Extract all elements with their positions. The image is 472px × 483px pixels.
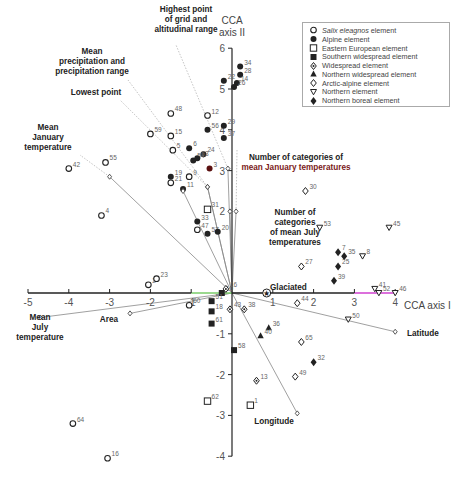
point-label: 21 <box>175 175 183 182</box>
marker-circle-open <box>170 147 176 153</box>
marker-triangle-down-open <box>311 89 317 94</box>
marker-square-open <box>247 402 253 408</box>
point-label: 64 <box>77 416 85 423</box>
marker-square-filled <box>209 308 215 314</box>
legend-label: Arctic-alpine element <box>322 79 389 88</box>
point-label: 37 <box>228 130 236 137</box>
x-axis-title: CCA axis I <box>404 300 451 311</box>
vector-label: Number of <box>275 208 316 217</box>
marker-circle-filled <box>237 64 243 70</box>
marker-circle-filled <box>168 174 174 180</box>
legend-label: element <box>369 26 397 35</box>
point-label: 1 <box>254 397 258 404</box>
marker-triangle-filled <box>257 332 263 338</box>
point-label: 61 <box>216 316 224 323</box>
vector-label: precipitation and <box>59 57 125 66</box>
point-label: 43 <box>234 301 242 308</box>
point-label: 15 <box>175 128 183 135</box>
point-label: 53 <box>324 220 332 227</box>
x-tick-label: 4 <box>392 297 398 308</box>
point-label: 51 <box>216 293 224 300</box>
marker-circle-open <box>103 160 109 166</box>
point-label: 30 <box>309 183 317 190</box>
point-label: 4 <box>105 207 109 214</box>
marker-circle-filled <box>205 127 211 133</box>
marker-vec-end <box>228 209 232 214</box>
marker-diamond-open <box>299 338 305 345</box>
marker-circle-open <box>146 282 152 288</box>
point-label: 42 <box>73 161 81 168</box>
point-label: 7 <box>342 244 346 251</box>
marker-diamond-open <box>294 300 300 307</box>
marker-diamond-filled <box>311 97 317 105</box>
marker-circle-open <box>66 166 72 172</box>
vector-label: Longitude <box>254 417 294 426</box>
legend: Salix eleagnos elementAlpine elementEast… <box>302 22 450 107</box>
vector-extension <box>236 150 237 211</box>
marker-circle-open <box>168 111 174 117</box>
marker-circle-open <box>168 133 174 139</box>
point-label: 44 <box>301 295 309 302</box>
marker-circle-open <box>195 227 201 233</box>
marker-diamond-filled <box>311 358 317 366</box>
marker-circle-filled <box>221 78 227 84</box>
y-tick-label: 3 <box>219 166 225 177</box>
marker-diamond-open <box>292 373 298 380</box>
point-label: 22 <box>228 73 236 80</box>
x-tick-label: 3 <box>352 297 358 308</box>
point-label: 62 <box>212 393 220 400</box>
marker-circle-filled <box>221 135 227 141</box>
point-label: 59 <box>154 126 162 133</box>
y-tick-label: -4 <box>216 451 225 462</box>
legend-item: Alpine element <box>309 35 449 44</box>
vector-label: Latitude <box>407 329 439 338</box>
marker-circle-open <box>105 455 111 461</box>
marker-square-open <box>204 398 210 404</box>
legend-label: Widespread element <box>322 61 388 70</box>
vector-label: temperatures <box>269 238 321 247</box>
vector-label: Number of categories of <box>249 153 343 162</box>
x-tick-label: 1 <box>270 297 276 308</box>
point-label: 20 <box>222 224 230 231</box>
marker-circle-open <box>186 174 192 180</box>
vector-label: July <box>32 323 49 332</box>
y-axis-title-line1: CCA <box>221 15 242 26</box>
vector-label: temperature <box>16 333 64 342</box>
marker-circle-open <box>186 302 192 308</box>
legend-diamond-dot-icon <box>309 62 318 70</box>
marker-diamond-filled <box>331 277 337 285</box>
vector-label: categories <box>275 218 316 227</box>
vector-extension <box>80 155 110 177</box>
marker-square-filled <box>311 54 317 60</box>
point-label: 26 <box>238 79 246 86</box>
marker-circle-open <box>148 131 154 137</box>
marker-circle-open <box>99 213 105 219</box>
marker-diamond-dot <box>254 377 260 384</box>
vector-label: January <box>32 133 64 142</box>
point-label: 8 <box>367 248 371 255</box>
vector-label: Mean <box>82 47 103 56</box>
legend-square-open-icon <box>309 44 318 52</box>
y-tick-label: -1 <box>216 329 225 340</box>
marker-circle-open <box>70 421 76 427</box>
legend-label: Eastern European element <box>322 44 408 53</box>
point-label: 29 <box>228 118 236 125</box>
marker-circle-open <box>311 28 317 34</box>
vector-label: Glaciated <box>270 283 307 292</box>
point-label: 49 <box>299 369 307 376</box>
legend-label: Northern element <box>322 87 378 96</box>
marker-triangle-down-open <box>360 254 366 259</box>
legend-label: Alpine element <box>322 35 370 44</box>
legend-label: Southern widespread element <box>322 52 418 61</box>
point-label: 40 <box>265 328 273 335</box>
marker-vec-end <box>128 311 132 316</box>
marker-circle-filled <box>207 166 213 172</box>
y-tick-label: -2 <box>216 370 225 381</box>
legend-item: Northern boreal element <box>309 96 449 105</box>
point-label: 18 <box>216 303 224 310</box>
y-axis-title-line2: axis II <box>219 27 245 38</box>
y-tick-label: 5 <box>219 84 225 95</box>
point-label: 9 <box>193 169 197 176</box>
point-label: 12 <box>212 108 220 115</box>
point-label: 65 <box>305 334 313 341</box>
